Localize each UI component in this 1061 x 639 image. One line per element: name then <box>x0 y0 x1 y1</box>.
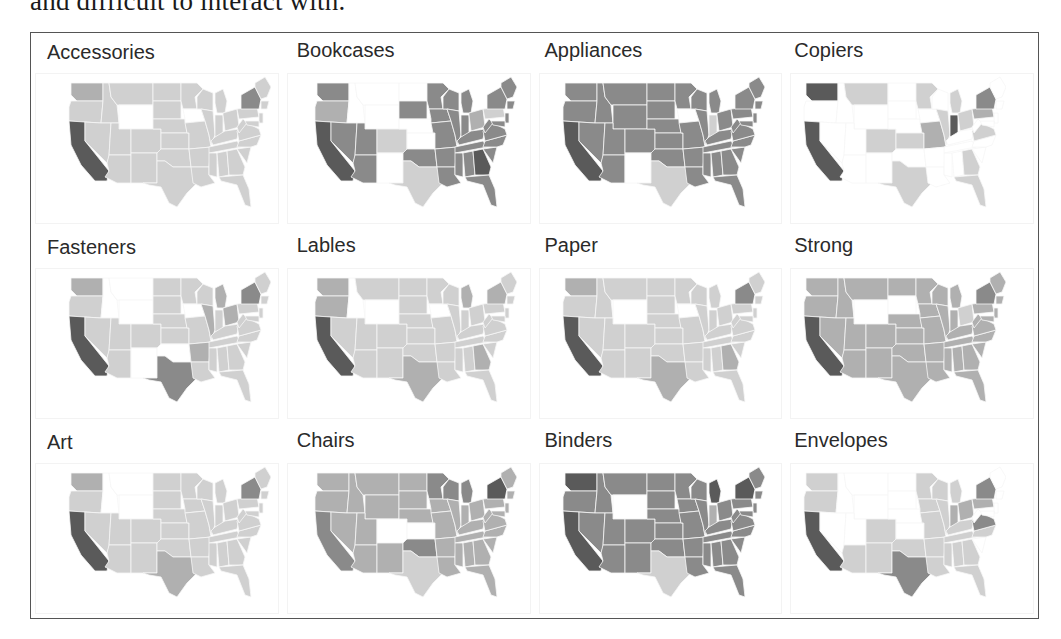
map-panel-lables: Lables <box>283 228 535 423</box>
state-ar <box>924 537 946 557</box>
state-sd <box>888 491 916 509</box>
state-nj <box>753 503 757 513</box>
state-sd <box>153 491 181 509</box>
state-wy <box>613 495 647 519</box>
state-ct <box>996 296 1004 304</box>
state-ct <box>755 296 763 304</box>
panel-title: Fasteners <box>47 236 136 259</box>
state-sd <box>399 296 427 314</box>
state-wy <box>854 300 888 324</box>
state-nd <box>888 278 916 296</box>
state-ks <box>161 133 189 149</box>
state-mt <box>109 83 153 105</box>
state-ar <box>924 147 946 167</box>
state-nj <box>753 308 757 318</box>
map-panel-copiers: Copiers <box>786 33 1038 228</box>
map-panel-chairs: Chairs <box>283 423 535 618</box>
state-wa <box>806 278 838 296</box>
state-nm <box>866 153 892 183</box>
state-ms <box>455 348 463 372</box>
state-ks <box>655 523 683 539</box>
state-fl <box>465 565 497 597</box>
panel-title: Chairs <box>297 429 355 452</box>
map-panel-bookcases: Bookcases <box>283 33 535 228</box>
state-mt <box>109 473 153 495</box>
state-sd <box>647 296 675 314</box>
state-or <box>69 491 103 513</box>
state-oh <box>223 499 239 521</box>
state-wy <box>365 300 399 324</box>
state-az <box>105 545 131 573</box>
state-ms <box>455 543 463 567</box>
state-wa <box>565 278 597 296</box>
panel-title: Copiers <box>794 39 863 62</box>
map-panel-paper: Paper <box>535 228 787 423</box>
state-ks <box>161 523 189 539</box>
map-panel-appliances: Appliances <box>535 33 787 228</box>
state-nj <box>505 308 509 318</box>
state-az <box>351 545 377 573</box>
state-ks <box>407 133 435 149</box>
state-co <box>625 129 655 153</box>
state-oh <box>469 304 485 326</box>
panel-title: Lables <box>297 234 356 257</box>
state-nm <box>131 543 157 573</box>
state-oh <box>958 304 974 326</box>
small-multiples-frame: Accessories Bookcases Appliances Copiers… <box>30 32 1039 619</box>
state-fl <box>954 370 986 402</box>
state-co <box>377 519 407 543</box>
state-ct <box>755 491 763 499</box>
state-ct <box>261 491 269 499</box>
state-wa <box>806 473 838 491</box>
state-nm <box>866 543 892 573</box>
state-or <box>315 101 349 123</box>
state-az <box>351 155 377 183</box>
state-wa <box>71 83 103 101</box>
state-wy <box>854 105 888 129</box>
state-mt <box>844 473 888 495</box>
state-sd <box>153 296 181 314</box>
state-ms <box>703 348 711 372</box>
us-choropleth-map <box>61 75 271 215</box>
state-co <box>377 324 407 348</box>
state-sd <box>647 491 675 509</box>
state-nj <box>259 308 263 318</box>
state-sd <box>888 101 916 119</box>
state-az <box>599 545 625 573</box>
state-ms <box>944 348 952 372</box>
state-sd <box>888 296 916 314</box>
state-mi <box>950 284 962 308</box>
state-co <box>625 324 655 348</box>
state-fl <box>219 175 251 207</box>
state-mi <box>215 284 227 308</box>
state-mi <box>215 89 227 113</box>
state-fl <box>713 370 745 402</box>
state-nm <box>866 348 892 378</box>
state-wy <box>613 300 647 324</box>
state-ms <box>703 153 711 177</box>
state-fl <box>713 565 745 597</box>
state-nd <box>153 473 181 491</box>
state-mi <box>215 479 227 503</box>
state-az <box>599 155 625 183</box>
us-choropleth-map <box>555 465 765 605</box>
state-nd <box>153 278 181 296</box>
panel-title: Strong <box>794 234 853 257</box>
state-ar <box>924 342 946 362</box>
state-ct <box>261 101 269 109</box>
state-wa <box>806 83 838 101</box>
state-nj <box>505 113 509 123</box>
state-ms <box>209 153 217 177</box>
state-ks <box>896 328 924 344</box>
state-co <box>377 129 407 153</box>
us-choropleth-map <box>307 270 517 410</box>
state-wa <box>71 473 103 491</box>
state-nm <box>377 543 403 573</box>
us-choropleth-map <box>796 465 1006 605</box>
state-mi <box>461 284 473 308</box>
map-panel-accessories: Accessories <box>31 33 283 228</box>
state-or <box>804 296 838 318</box>
state-ct <box>996 101 1004 109</box>
state-wa <box>71 278 103 296</box>
state-az <box>840 155 866 183</box>
